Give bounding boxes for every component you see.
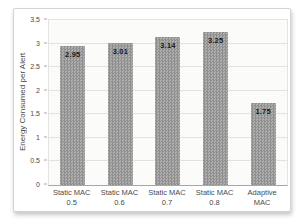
bar-slot: 3.01 (97, 20, 145, 185)
chart-frame: Energy Consumed per Alert 00.511.522.533… (13, 8, 291, 212)
bar-slot: 2.95 (49, 20, 97, 185)
y-tick-mark (44, 42, 47, 43)
x-category-label: Adaptive MAC (238, 188, 286, 208)
y-tick-mark (44, 184, 47, 185)
bar-slot: 3.14 (144, 20, 192, 185)
bar: 2.95 (60, 46, 85, 185)
bar: 3.14 (155, 37, 180, 185)
bars-row: 2.953.013.143.251.75 (49, 20, 287, 185)
bar-slot: 3.25 (192, 20, 240, 185)
bar-value-label: 3.25 (203, 36, 228, 45)
x-category-label: Static MAC 0.8 (191, 188, 239, 208)
plot-area: 2.953.013.143.251.75 (48, 19, 288, 186)
screen: Energy Consumed per Alert 00.511.522.533… (0, 0, 300, 224)
y-tick-mark (44, 113, 47, 114)
y-tick-mark (44, 66, 47, 67)
bar-value-label: 3.14 (155, 41, 180, 50)
y-tick-mark (44, 19, 47, 20)
bar-value-label: 2.95 (60, 50, 85, 59)
x-category-label: Static MAC 0.5 (48, 188, 96, 208)
y-tick-mark (44, 160, 47, 161)
y-tick-label: 1.5 (30, 110, 40, 117)
bar-value-label: 3.01 (108, 47, 133, 56)
bar-value-label: 1.75 (251, 107, 276, 116)
y-tick-label: 1 (36, 133, 40, 140)
y-tick-mark (44, 136, 47, 137)
bar: 3.01 (108, 43, 133, 185)
y-axis-ticks: 00.511.522.533.5 (14, 19, 47, 184)
bar-slot: 1.75 (239, 20, 287, 185)
bar: 3.25 (203, 32, 228, 185)
y-tick-label: 3 (36, 39, 40, 46)
y-tick-label: 0.5 (30, 157, 40, 164)
bar: 1.75 (251, 103, 276, 186)
x-category-label: Static MAC 0.6 (96, 188, 144, 208)
y-tick-label: 3.5 (30, 16, 40, 23)
x-category-label: Static MAC 0.7 (143, 188, 191, 208)
y-tick-label: 0 (36, 181, 40, 188)
y-tick-mark (44, 89, 47, 90)
x-axis-labels: Static MAC 0.5Static MAC 0.6Static MAC 0… (48, 188, 286, 208)
y-tick-label: 2.5 (30, 63, 40, 70)
y-tick-label: 2 (36, 86, 40, 93)
